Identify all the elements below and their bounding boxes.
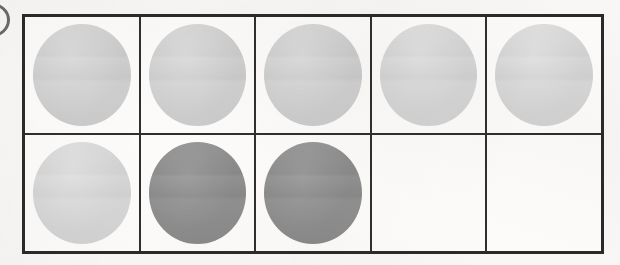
grid-cell-r1c5[interactable] [487,17,601,133]
circle-grid-table [22,14,604,254]
grid-cell-r1c2[interactable] [141,17,257,133]
grid-cell-r2c2[interactable] [141,135,257,251]
grid-cell-r1c3[interactable] [256,17,372,133]
clipped-arc-icon [0,3,10,37]
grid-cell-r1c4[interactable] [372,17,488,133]
table-row [25,135,601,251]
circle-marker [495,24,593,126]
circle-marker [33,142,131,244]
scanned-figure-page [0,0,620,265]
grid-cell-r2c3[interactable] [256,135,372,251]
circle-marker [380,24,478,126]
grid-cell-r2c1[interactable] [25,135,141,251]
circle-marker [264,142,362,244]
circle-marker [149,24,247,126]
grid-cell-r2c5[interactable] [487,135,601,251]
circle-marker [149,142,247,244]
circle-marker [264,24,362,126]
grid-cell-r2c4[interactable] [372,135,488,251]
circle-marker [33,24,131,126]
table-row [25,17,601,135]
grid-cell-r1c1[interactable] [25,17,141,133]
